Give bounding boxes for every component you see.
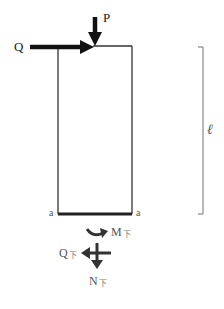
section-label-left: a [49, 208, 53, 218]
load-p-arrow-icon [88, 17, 102, 46]
axial-label: N下 [89, 275, 107, 288]
column-rectangle [58, 46, 132, 214]
length-dimension-bracket [198, 47, 203, 214]
moment-curved-arrow-icon [87, 228, 108, 238]
shear-label-sub: 下 [69, 251, 77, 260]
axial-arrow-icon [91, 243, 103, 269]
load-p-label: P [103, 11, 110, 24]
load-q-label: Q [14, 40, 23, 53]
moment-label-main: M [111, 225, 122, 239]
section-label-right: a [136, 208, 140, 218]
length-label: ℓ [207, 123, 213, 137]
column-diagram [0, 0, 224, 309]
axial-label-main: N [89, 274, 98, 288]
shear-label-main: Q [59, 246, 68, 260]
axial-label-sub: 下 [99, 279, 107, 288]
moment-label: M下 [111, 226, 131, 239]
load-q-arrow-icon [30, 40, 94, 54]
moment-label-sub: 下 [123, 230, 131, 239]
shear-label: Q下 [59, 247, 77, 260]
